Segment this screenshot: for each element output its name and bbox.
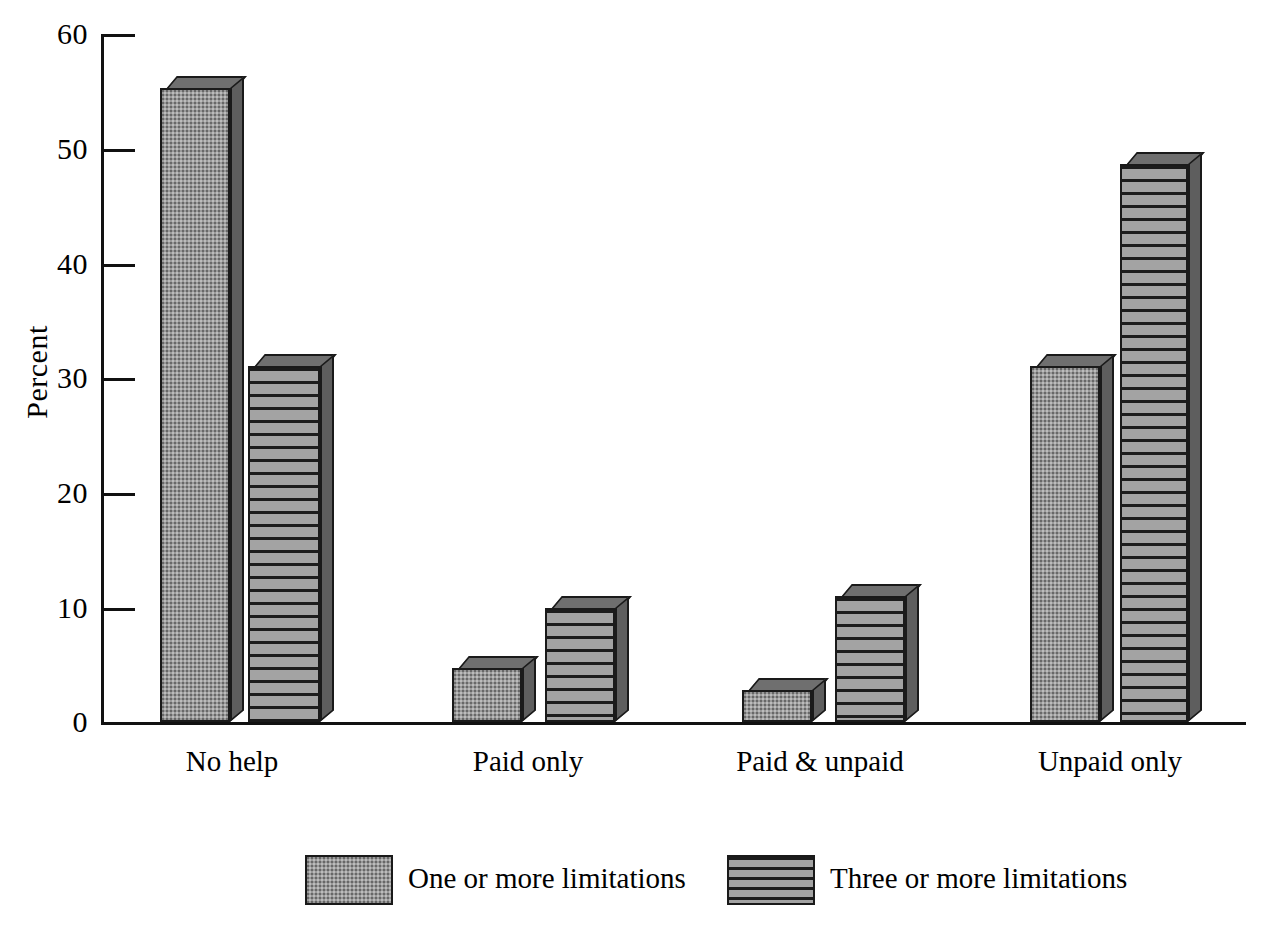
x-label-paid-only: Paid only xyxy=(428,744,628,778)
bar-side-face xyxy=(905,584,919,722)
y-tick-label-40: 40 xyxy=(10,249,88,279)
bar-front-face xyxy=(1120,164,1188,722)
x-label-no-help: No help xyxy=(132,744,332,778)
y-tick-label-30: 30 xyxy=(10,363,88,393)
y-tick-label-10: 10 xyxy=(10,593,88,623)
bar-side-face xyxy=(615,596,629,722)
bar-front-face xyxy=(160,88,230,722)
bar-front-face xyxy=(1030,366,1100,722)
bar-paid-and-unpaid-three-or-more xyxy=(835,596,905,722)
legend-swatch-one-or-more xyxy=(305,855,393,905)
y-tick-50 xyxy=(104,149,135,152)
bar-side-face xyxy=(1188,152,1202,722)
bar-paid-and-unpaid-one-or-more xyxy=(742,690,812,722)
bar-side-face xyxy=(1100,354,1114,722)
y-tick-40 xyxy=(104,264,135,267)
bar-paid-only-three-or-more xyxy=(545,608,615,722)
bar-front-face xyxy=(452,668,522,722)
bar-chart: Percent 60 50 40 30 20 10 0 No help Paid… xyxy=(0,0,1272,930)
bar-side-face xyxy=(320,354,334,722)
y-tick-60 xyxy=(104,34,135,37)
x-label-paid-and-unpaid: Paid & unpaid xyxy=(720,744,920,778)
bar-front-face xyxy=(545,608,615,722)
legend-swatch-three-or-more xyxy=(727,855,815,905)
y-tick-label-50: 50 xyxy=(10,134,88,164)
x-label-unpaid-only: Unpaid only xyxy=(1010,744,1210,778)
y-tick-label-0: 0 xyxy=(10,707,88,737)
bar-no-help-one-or-more xyxy=(160,88,230,722)
bar-front-face xyxy=(835,596,905,722)
bar-no-help-three-or-more xyxy=(248,366,320,722)
x-axis-line xyxy=(101,722,1246,725)
bar-front-face xyxy=(742,690,812,722)
legend-label-three-or-more: Three or more limitations xyxy=(830,861,1127,895)
y-tick-label-60: 60 xyxy=(10,19,88,49)
bar-unpaid-only-one-or-more xyxy=(1030,366,1100,722)
y-tick-20 xyxy=(104,493,135,496)
bar-paid-only-one-or-more xyxy=(452,668,522,722)
y-tick-10 xyxy=(104,608,135,611)
y-tick-label-20: 20 xyxy=(10,478,88,508)
bar-side-face xyxy=(522,656,536,722)
bar-unpaid-only-three-or-more xyxy=(1120,164,1188,722)
bar-front-face xyxy=(248,366,320,722)
bar-side-face xyxy=(230,76,244,722)
legend-label-one-or-more: One or more limitations xyxy=(408,861,686,895)
y-tick-30 xyxy=(104,378,135,381)
